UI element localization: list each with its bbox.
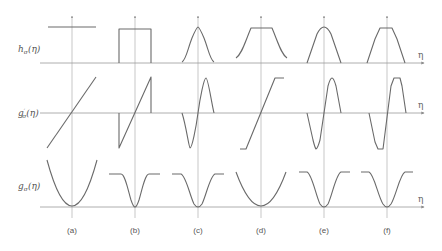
row-g-curves — [47, 160, 413, 207]
column-label-f: (f) — [383, 226, 391, 235]
curve-gprime-d — [240, 78, 284, 149]
diagram-canvas: hσ(η) g′σ(η) gσ(η) η η η — [0, 0, 442, 251]
curve-g-b — [109, 174, 160, 207]
curve-gprime-f — [369, 78, 406, 149]
column-label-a: (a) — [67, 226, 77, 235]
horizontal-axes — [40, 63, 424, 207]
curve-gprime-a — [47, 77, 96, 148]
row-h-curves — [48, 27, 405, 63]
eta-label-row3: η — [418, 194, 423, 204]
curve-h-d — [236, 28, 287, 58]
eta-label-row1: η — [418, 50, 423, 60]
curve-g-e — [299, 172, 350, 207]
column-label-d: (d) — [256, 226, 266, 235]
column-label-c: (c) — [193, 226, 203, 235]
svg-text:hσ(η): hσ(η) — [18, 44, 41, 55]
column-label-b: (b) — [130, 226, 140, 235]
curve-h-f — [367, 28, 405, 63]
column-labels: (a) (b) (c) (d) (e) (f) — [67, 226, 391, 235]
column-label-e: (e) — [319, 226, 329, 235]
svg-text:g′σ(η): g′σ(η) — [18, 107, 39, 119]
row-label-g: gσ(η) — [18, 181, 41, 192]
row-label-gprime: g′σ(η) — [18, 107, 39, 119]
row-label-h: hσ(η) — [18, 44, 41, 55]
svg-text:gσ(η): gσ(η) — [18, 181, 41, 192]
eta-label-row2: η — [418, 100, 423, 110]
